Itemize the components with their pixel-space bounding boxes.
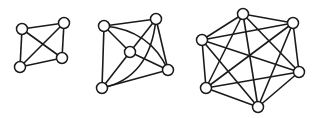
- graph-edge: [293, 23, 299, 72]
- graph-k4: [15, 18, 70, 73]
- graph-k6: [197, 9, 305, 113]
- graph-node: [57, 53, 68, 64]
- graph-edge: [102, 26, 104, 88]
- graph-edge: [130, 52, 168, 70]
- graph-edge: [22, 29, 62, 58]
- graph-edge: [104, 19, 156, 26]
- graph-node: [125, 47, 136, 58]
- graph-node: [163, 65, 174, 76]
- graph-node: [253, 102, 264, 113]
- graph-diagram-canvas: [0, 0, 314, 118]
- graph-node: [238, 9, 249, 20]
- graph-edge: [102, 52, 130, 88]
- graph-node: [59, 18, 70, 29]
- graph-node: [201, 83, 212, 94]
- graph-edge: [202, 40, 206, 88]
- graph-node: [17, 24, 28, 35]
- graph-edge: [22, 23, 64, 29]
- graph-edge: [156, 19, 168, 70]
- graph-edge: [20, 58, 62, 67]
- graph-node: [294, 67, 305, 78]
- graph-node: [15, 62, 26, 73]
- graph-node: [288, 18, 299, 29]
- graph-node: [99, 21, 110, 32]
- graph-node: [151, 14, 162, 25]
- graph-node: [197, 35, 208, 46]
- graph-k5: [97, 14, 174, 94]
- graph-node: [97, 83, 108, 94]
